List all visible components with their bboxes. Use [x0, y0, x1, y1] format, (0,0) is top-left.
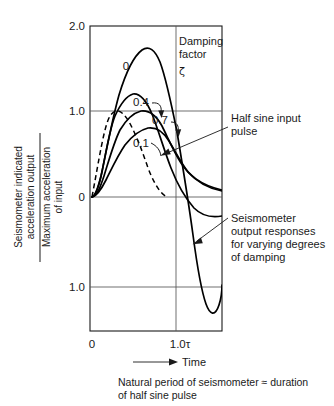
curve-label-0.1-leader: [151, 143, 161, 156]
response-label-line1: Seismometer: [231, 212, 296, 224]
x-axis-title: Time: [182, 356, 206, 368]
annotation-damping-factor: Damping factor ζ: [179, 35, 223, 78]
y-tick-labels: 2.0 1.0 0 1.0: [69, 20, 85, 293]
time-arrow-head: [169, 359, 178, 366]
response-label-line4: of damping: [231, 251, 285, 263]
annotation-half-sine-pulse: Half sine input pulse: [161, 112, 301, 156]
ytick-1: 1.0: [69, 105, 85, 117]
x-axis-title-group: Time: [133, 356, 206, 368]
ytick-2: 2.0: [69, 20, 85, 32]
y-axis-label: Seismometer indicated acceleration outpu…: [13, 133, 64, 262]
y-axis-numerator-line1: Seismometer indicated: [13, 146, 24, 248]
response-label-line3: for varying degrees: [231, 238, 326, 250]
curve-label-0.7: 0.7: [152, 114, 168, 126]
y-axis-numerator-line2: acceleration output: [25, 155, 36, 240]
annotation-output-responses: Seismometer output responses for varying…: [193, 212, 326, 263]
curve-damping-0: [92, 48, 222, 313]
response-leader: [197, 218, 228, 241]
half-sine-arrow-head: [161, 148, 171, 155]
y-axis-denominator-line1: Maximum acceleration: [41, 147, 52, 247]
curve-damping-0.1: [92, 94, 222, 217]
seismometer-response-figure: Seismometer indicated acceleration outpu…: [0, 0, 334, 406]
plot-frame: [90, 26, 222, 331]
ytick-0: 0: [79, 191, 85, 203]
chart-svg: Seismometer indicated acceleration outpu…: [0, 0, 334, 406]
y-axis-denominator-line2: of input: [53, 180, 64, 213]
plot-curves: [92, 48, 222, 313]
damping-label-line1: Damping: [179, 35, 223, 47]
xtick-1tau: 1.0τ: [170, 338, 191, 350]
curve-label-0: 0: [123, 60, 129, 72]
half-sine-label-line1: Half sine input: [231, 112, 301, 124]
caption-line1: Natural period of seismometer ≈ duration: [118, 376, 308, 388]
damping-label-line2: factor: [179, 48, 207, 60]
x-tick-labels: 0 1.0τ: [89, 338, 191, 350]
response-label-line2: output responses: [231, 225, 316, 237]
ytick-neg1: 1.0: [69, 281, 85, 293]
caption-line2: of half sine pulse: [118, 389, 197, 401]
xtick-0: 0: [89, 338, 95, 350]
figure-caption: Natural period of seismometer ≈ duration…: [118, 376, 308, 401]
damping-symbol-zeta: ζ: [179, 65, 185, 78]
curve-label-0.1: 0.1: [133, 137, 149, 149]
half-sine-label-line2: pulse: [231, 125, 257, 137]
curve-label-0.4: 0.4: [133, 96, 150, 108]
